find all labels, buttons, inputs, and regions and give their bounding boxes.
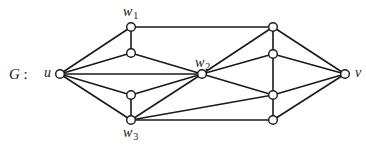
vertex-label-w2: w2 bbox=[195, 56, 210, 72]
graph-diagram bbox=[0, 0, 366, 146]
vertex-label-w1: w1 bbox=[123, 5, 138, 21]
vertex-label-v: v bbox=[355, 66, 361, 80]
vertex-w3 bbox=[127, 116, 136, 125]
edge-r1-v bbox=[273, 27, 345, 74]
vertex-r3 bbox=[269, 91, 278, 100]
vertex-r2 bbox=[269, 50, 278, 59]
graph-name-label: G : bbox=[9, 67, 28, 82]
edge-u-w3 bbox=[60, 74, 131, 120]
vertex-r4 bbox=[269, 116, 278, 125]
edge-u-a bbox=[60, 53, 131, 74]
vertex-u bbox=[56, 70, 65, 79]
edge-w2-r2 bbox=[202, 54, 273, 74]
edge-r4-v bbox=[273, 74, 345, 120]
edge-r3-v bbox=[273, 74, 345, 95]
edge-r2-v bbox=[273, 54, 345, 74]
vertex-b bbox=[127, 91, 136, 100]
edge-w2-r3 bbox=[202, 74, 273, 95]
vertex-a bbox=[127, 49, 136, 58]
edge-u-w1 bbox=[60, 27, 131, 74]
vertex-v bbox=[341, 70, 350, 79]
edge-u-b bbox=[60, 74, 131, 95]
edge-a-w2 bbox=[131, 53, 202, 74]
vertex-label-u: u bbox=[44, 66, 51, 80]
vertex-w1 bbox=[127, 23, 136, 32]
edge-w2-r1 bbox=[202, 27, 273, 74]
vertex-r1 bbox=[269, 23, 278, 32]
graph-name: G bbox=[9, 66, 20, 82]
edge-b-w2 bbox=[131, 74, 202, 95]
edge-w3-r3 bbox=[131, 95, 273, 120]
vertex-label-w3: w3 bbox=[123, 126, 138, 142]
graph-name-colon: : bbox=[24, 66, 28, 82]
